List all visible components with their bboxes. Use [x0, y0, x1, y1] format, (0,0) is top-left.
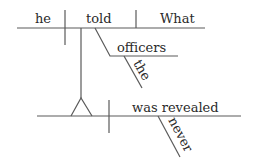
sentence-diagram: he told What officers the was revealed n…	[0, 0, 256, 164]
word-subject: he	[35, 11, 51, 26]
pedestal-triangle	[71, 98, 92, 116]
word-subordinate-verb: was revealed	[132, 100, 219, 115]
word-adverb-never: never	[165, 114, 196, 155]
word-verb: told	[86, 11, 112, 26]
word-direct-object: What	[160, 11, 195, 26]
word-indirect-object: officers	[117, 40, 166, 55]
word-modifier-the: the	[130, 57, 154, 83]
